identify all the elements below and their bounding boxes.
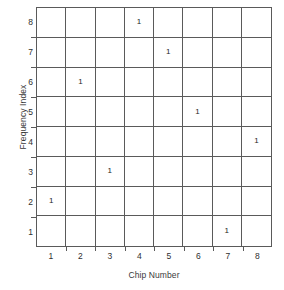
x-tick-label-5: 5 <box>159 252 179 261</box>
x-tick-label-4: 4 <box>129 252 149 261</box>
grid-cell-chip5-freq3 <box>154 157 183 187</box>
y-axis-title: Frequency Index <box>18 47 28 187</box>
y-tick-mark-6 <box>31 67 36 68</box>
grid-cell-chip5-freq5 <box>154 97 183 127</box>
grid-cell-chip8-freq1 <box>242 216 271 246</box>
data-point-marker: 1 <box>254 137 258 145</box>
grid-cell-chip7-freq7 <box>213 38 242 68</box>
grid-cell-chip7-freq1: 1 <box>213 216 242 246</box>
grid-cell-chip4-freq1 <box>125 216 154 246</box>
grid-cell-chip6-freq4 <box>183 127 212 157</box>
x-axis-title: Chip Number <box>35 270 273 280</box>
x-tick-label-7: 7 <box>218 252 238 261</box>
grid-cell-chip5-freq8 <box>154 8 183 38</box>
grid-cell-chip1-freq2: 1 <box>37 187 66 217</box>
grid-cell-chip3-freq2 <box>96 187 125 217</box>
grid-cell-chip4-freq3 <box>125 157 154 187</box>
y-tick-label-7: 7 <box>17 48 33 57</box>
grid-cell-chip1-freq4 <box>37 127 66 157</box>
x-tick-label-6: 6 <box>188 252 208 261</box>
y-tick-label-8: 8 <box>17 18 33 27</box>
grid-cell-chip2-freq8 <box>66 8 95 38</box>
x-tick-label-8: 8 <box>247 252 267 261</box>
plot-area: 11111111 <box>36 7 272 247</box>
grid-cell-chip6-freq7 <box>183 38 212 68</box>
y-tick-mark-2 <box>31 187 36 188</box>
grid-cell-chip2-freq6: 1 <box>66 68 95 98</box>
y-tick-mark-4 <box>31 127 36 128</box>
grid-cell-chip3-freq1 <box>96 216 125 246</box>
data-point-marker: 1 <box>107 167 111 175</box>
grid-cell-chip5-freq2 <box>154 187 183 217</box>
x-tick-mark-8 <box>243 247 244 251</box>
y-tick-label-4: 4 <box>17 138 33 147</box>
y-tick-label-2: 2 <box>17 198 33 207</box>
x-tick-label-1: 1 <box>41 252 61 261</box>
grid-cell-chip4-freq5 <box>125 97 154 127</box>
grid-cell-chip1-freq1 <box>37 216 66 246</box>
y-tick-mark-5 <box>31 97 36 98</box>
data-point-marker: 1 <box>49 197 53 205</box>
grid-cell-chip3-freq4 <box>96 127 125 157</box>
grid-cell-chip8-freq6 <box>242 68 271 98</box>
data-point-marker: 1 <box>195 108 199 116</box>
grid-cell-chip4-freq2 <box>125 187 154 217</box>
x-tick-mark-2 <box>66 247 67 251</box>
grid-cell-chip7-freq4 <box>213 127 242 157</box>
grid-cell-chip8-freq5 <box>242 97 271 127</box>
y-tick-mark-3 <box>31 157 36 158</box>
grid-cell-chip2-freq3 <box>66 157 95 187</box>
grid-cell-chip2-freq5 <box>66 97 95 127</box>
grid-cell-chip7-freq3 <box>213 157 242 187</box>
grid-cell-chip3-freq3: 1 <box>96 157 125 187</box>
grid-cell-chip4-freq4 <box>125 127 154 157</box>
grid-cell-chip7-freq6 <box>213 68 242 98</box>
grid-cell-chip6-freq2 <box>183 187 212 217</box>
grid-cell-chip5-freq4 <box>154 127 183 157</box>
grid-cell-chip6-freq6 <box>183 68 212 98</box>
frequency-hopping-pattern-chart: Frequency Index 11111111 Chip Number 876… <box>0 0 284 290</box>
grid-cell-chip8-freq3 <box>242 157 271 187</box>
x-tick-label-3: 3 <box>100 252 120 261</box>
grid-cell-chip3-freq8 <box>96 8 125 38</box>
grid-cell-chip6-freq5: 1 <box>183 97 212 127</box>
y-tick-mark-7 <box>31 37 36 38</box>
x-tick-mark-4 <box>125 247 126 251</box>
data-point-marker: 1 <box>224 227 228 235</box>
grid-cell-chip3-freq7 <box>96 38 125 68</box>
grid-cell-chip2-freq7 <box>66 38 95 68</box>
grid-cell-chip3-freq6 <box>96 68 125 98</box>
grid-cell-chip8-freq2 <box>242 187 271 217</box>
y-tick-label-3: 3 <box>17 168 33 177</box>
grid-cell-chip8-freq4: 1 <box>242 127 271 157</box>
grid-cell-chip8-freq8 <box>242 8 271 38</box>
grid-cell-chip7-freq5 <box>213 97 242 127</box>
data-point-marker: 1 <box>166 48 170 56</box>
x-tick-mark-3 <box>95 247 96 251</box>
grid-cell-chip4-freq7 <box>125 38 154 68</box>
grid-cell-chip1-freq6 <box>37 68 66 98</box>
grid-cell-chip5-freq6 <box>154 68 183 98</box>
grid-cell-chip6-freq8 <box>183 8 212 38</box>
grid-cell-chip6-freq3 <box>183 157 212 187</box>
grid-cell-chip1-freq5 <box>37 97 66 127</box>
grid-cell-chip8-freq7 <box>242 38 271 68</box>
grid-cell-chip3-freq5 <box>96 97 125 127</box>
y-tick-mark-1 <box>31 217 36 218</box>
grid-cell-chip4-freq8: 1 <box>125 8 154 38</box>
grid-cell-chip7-freq8 <box>213 8 242 38</box>
x-tick-label-2: 2 <box>70 252 90 261</box>
grid-cell-chip5-freq1 <box>154 216 183 246</box>
data-point-marker: 1 <box>137 18 141 26</box>
data-point-marker: 1 <box>78 78 82 86</box>
grid-cell-chip1-freq7 <box>37 38 66 68</box>
grid-cell-chip2-freq1 <box>66 216 95 246</box>
grid-cell-chip1-freq3 <box>37 157 66 187</box>
grid-cell-chip7-freq2 <box>213 187 242 217</box>
grid-cell-chip5-freq7: 1 <box>154 38 183 68</box>
grid-cells: 11111111 <box>37 8 271 246</box>
x-tick-mark-5 <box>154 247 155 251</box>
x-tick-mark-6 <box>184 247 185 251</box>
y-tick-label-1: 1 <box>17 228 33 237</box>
y-tick-label-6: 6 <box>17 78 33 87</box>
